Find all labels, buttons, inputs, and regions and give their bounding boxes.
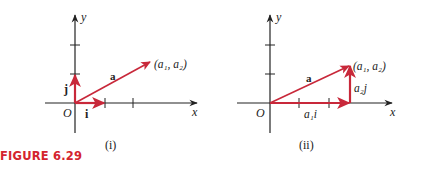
vector-a [75,62,150,103]
axis-label-x: x [191,105,198,119]
axis-label-y: y [80,10,87,24]
figure-caption: FIGURE 6.29 [0,149,82,163]
vector-label-i: i [85,107,89,121]
axis-label-x: x [389,105,396,119]
vector-label-j: j [63,82,68,96]
vector-label-a: a [110,70,116,82]
vector-label-a2j: a₂j [354,82,367,95]
panel-i: y x O j i a (a₁, a₂) (i) [45,10,198,152]
origin-label: O [63,106,72,120]
vector-label-a: a [306,72,312,84]
axis-label-y: y [275,10,282,24]
figure-canvas: y x O j i a (a₁, a₂) (i) y x O a a₁i a₂j… [0,0,421,169]
point-label: (a₁, a₂) [353,60,386,73]
panel-sublabel: (i) [105,138,116,152]
panel-sublabel: (ii) [299,138,314,152]
vector-label-a1i: a₁i [304,108,317,120]
origin-label: O [256,106,265,120]
point-label: (a₁, a₂) [154,58,187,71]
panel-ii: y x O a a₁i a₂j (a₁, a₂) (ii) [237,10,396,152]
